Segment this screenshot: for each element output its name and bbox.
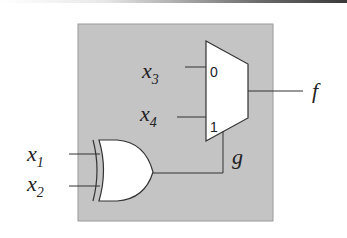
label-x1: x1 [26,141,44,170]
label-f: f [312,78,321,103]
circuit-diagram: 0 1 x3 x4 x1 x2 g f [0,0,347,238]
label-g: g [232,144,243,169]
label-x2: x2 [26,171,44,200]
mux-pin-0-label: 0 [210,64,218,80]
mux-pin-1-label: 1 [210,119,218,135]
